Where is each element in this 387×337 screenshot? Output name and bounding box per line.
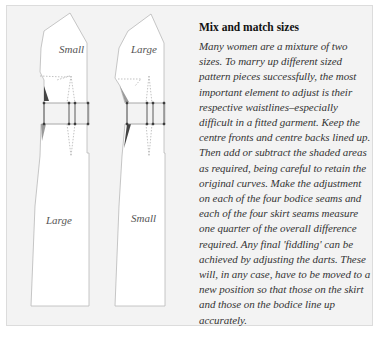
left-pattern: Small Large bbox=[31, 13, 89, 306]
left-waist-markers bbox=[43, 102, 89, 125]
article-body: Many women are a mixture of two sizes. T… bbox=[199, 39, 371, 328]
right-waist-markers bbox=[126, 102, 165, 125]
left-bodice-label: Small bbox=[59, 43, 84, 55]
left-skirt-label: Large bbox=[45, 214, 72, 226]
article-heading: Mix and match sizes bbox=[199, 21, 371, 33]
right-waist-band bbox=[127, 103, 165, 124]
pattern-diagram: Small Large Large Small bbox=[7, 6, 197, 327]
right-skirt-label: Small bbox=[131, 212, 156, 224]
left-bodice-piece bbox=[40, 13, 87, 103]
left-waist-band bbox=[44, 103, 89, 124]
article-text: Mix and match sizes Many women are a mix… bbox=[199, 21, 371, 328]
right-bodice-label: Large bbox=[130, 43, 157, 55]
right-pattern: Large Small bbox=[115, 14, 165, 306]
illustration-panel: Small Large Large Small Mix and match si… bbox=[6, 5, 373, 326]
right-bodice-piece bbox=[115, 14, 164, 103]
